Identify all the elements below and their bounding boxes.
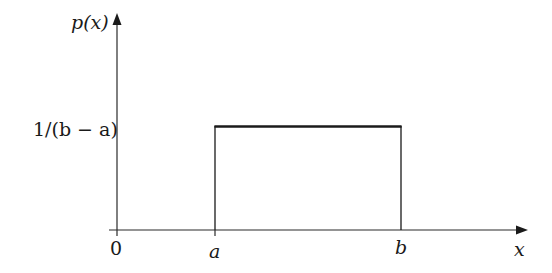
origin-label: 0 [110,239,122,258]
x-tick-a-label: a [209,242,220,261]
y-axis-label-text: p(x) [71,11,109,33]
y-axis-label: p(x) [71,13,109,32]
x-axis-label: x [514,240,525,259]
x-tick-b-label: b [395,238,407,257]
chart-canvas: p(x) 1/(b − a) 0 a b x [0,0,552,273]
y-axis-arrow-icon [113,13,122,25]
y-level-label: 1/(b − a) [33,120,118,139]
x-axis-arrow-icon [516,226,528,235]
